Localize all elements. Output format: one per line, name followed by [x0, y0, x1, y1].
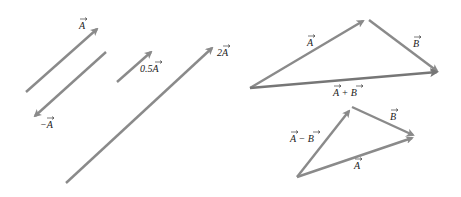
- label-A: A: [78, 20, 86, 31]
- label-sum-B: B: [413, 38, 419, 49]
- label-sum-A: A: [306, 37, 314, 48]
- label-negative-A: −A: [40, 119, 54, 130]
- label-vector-arrows: [47, 18, 421, 161]
- vector-A: [26, 29, 97, 92]
- sum-triangle: [250, 20, 437, 88]
- label-diff-A: A: [353, 160, 361, 171]
- label-half-A: 0.5A: [140, 63, 160, 74]
- vector-negative-A: [35, 52, 106, 116]
- vector-diagram: A −A 0.5A 2A A B A + B A − B B A: [0, 0, 461, 197]
- label-diff-A-minus-B: A − B: [289, 133, 314, 144]
- label-diff-B: B: [390, 111, 396, 122]
- label-sum-A-plus-B: A + B: [332, 87, 357, 98]
- label-double-A: 2A: [217, 47, 229, 58]
